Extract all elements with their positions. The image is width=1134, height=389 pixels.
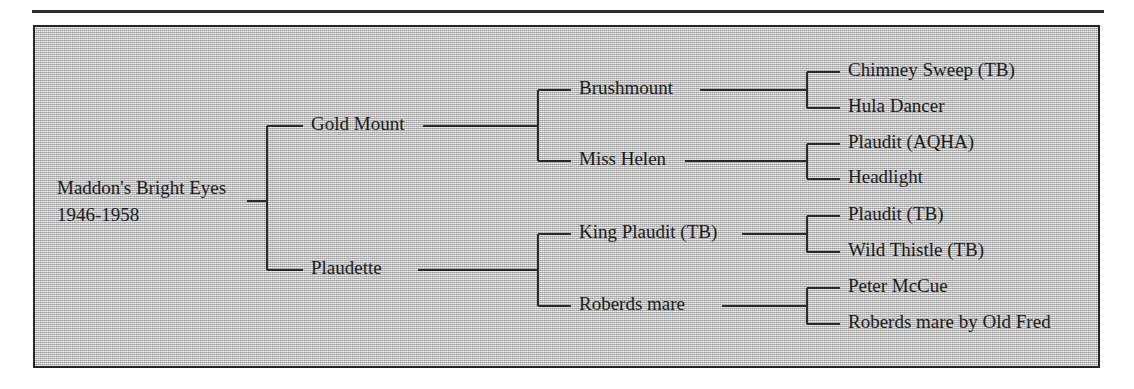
connector-gen2-tails xyxy=(418,126,538,270)
connector-gen2-bracket-lower xyxy=(538,234,571,306)
connector-gen3-bracket-2 xyxy=(807,144,840,179)
node-gen3-roberds-mare: Roberds mare xyxy=(579,293,685,314)
node-gen4-plaudit-tb: Plaudit (TB) xyxy=(848,203,944,225)
node-root-name: Maddon's Bright Eyes xyxy=(57,177,226,198)
node-gen2-plaudette: Plaudette xyxy=(311,257,382,278)
node-gen4-chimney-sweep: Chimney Sweep (TB) xyxy=(848,59,1015,81)
node-root-years: 1946-1958 xyxy=(57,204,139,225)
page-root: Maddon's Bright Eyes 1946-1958 Gold Moun… xyxy=(0,0,1134,389)
node-gen2-gold-mount: Gold Mount xyxy=(311,113,405,134)
node-gen3-king-plaudit: King Plaudit (TB) xyxy=(579,221,717,243)
connector-gen3-bracket-4 xyxy=(807,288,840,324)
node-gen4-plaudit-aqha: Plaudit (AQHA) xyxy=(848,131,974,153)
node-gen4-headlight: Headlight xyxy=(848,166,924,187)
node-gen4-wild-thistle: Wild Thistle (TB) xyxy=(848,239,984,261)
node-gen4-hula-dancer: Hula Dancer xyxy=(848,95,945,116)
node-gen3-brushmount: Brushmount xyxy=(579,77,674,98)
node-gen4-peter-mccue: Peter McCue xyxy=(848,275,948,296)
node-gen4-roberds-mare-old-fred: Roberds mare by Old Fred xyxy=(848,311,1051,332)
connector-gen3-tails xyxy=(685,90,807,306)
connector-gen3-bracket-3 xyxy=(807,216,840,252)
connector-gen2-bracket-upper xyxy=(538,90,571,161)
pedigree-chart-panel: Maddon's Bright Eyes 1946-1958 Gold Moun… xyxy=(33,25,1100,368)
pedigree-tree-graphic: Maddon's Bright Eyes 1946-1958 Gold Moun… xyxy=(35,27,1098,366)
connector-root-bracket xyxy=(267,126,303,270)
node-gen3-miss-helen: Miss Helen xyxy=(579,148,667,169)
connector-gen3-bracket-1 xyxy=(807,72,840,108)
horizontal-rule-divider xyxy=(32,10,1104,13)
